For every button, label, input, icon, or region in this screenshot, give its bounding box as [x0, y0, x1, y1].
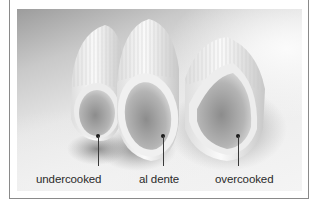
label-undercooked: undercooked: [36, 173, 101, 185]
pasta-al-dente: [112, 19, 183, 161]
callout-line-overcooked: [238, 136, 239, 166]
pasta-overcooked: [185, 37, 265, 161]
label-al-dente: al dente: [139, 173, 179, 185]
callout-line-undercooked: [98, 136, 99, 166]
pasta-illustration: [17, 9, 302, 191]
callout-line-al-dente: [163, 136, 164, 166]
pasta-undercooked: [71, 25, 123, 141]
pasta-photo: [17, 9, 302, 191]
label-overcooked: overcooked: [215, 173, 273, 185]
